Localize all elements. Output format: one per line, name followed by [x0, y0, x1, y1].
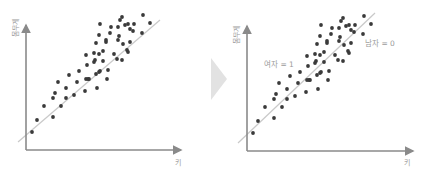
data-point	[319, 23, 323, 27]
data-point	[131, 29, 135, 33]
right-chart: 몸무게 키 여자 = 1 남자 = 0	[232, 13, 413, 167]
data-point	[101, 59, 105, 63]
data-point	[101, 49, 105, 53]
data-point	[315, 42, 319, 46]
data-point	[326, 78, 330, 82]
data-point	[83, 89, 87, 93]
data-point	[148, 21, 152, 25]
data-point	[285, 87, 289, 91]
data-point	[338, 35, 342, 39]
data-point	[325, 39, 329, 43]
data-point	[42, 104, 46, 108]
data-point	[341, 59, 345, 63]
data-point	[98, 22, 102, 26]
data-point	[120, 15, 124, 19]
data-point	[362, 14, 366, 18]
data-point	[285, 97, 289, 101]
data-point	[277, 81, 281, 85]
data-point	[126, 50, 130, 54]
data-point	[314, 59, 318, 63]
x-axis-label: 키	[175, 158, 181, 167]
data-point	[256, 119, 260, 123]
data-point	[337, 26, 341, 30]
data-point	[296, 81, 300, 85]
data-point	[108, 31, 112, 35]
data-point	[304, 90, 308, 94]
data-point	[30, 130, 34, 134]
data-point	[313, 52, 317, 56]
data-point	[93, 58, 97, 62]
data-point	[105, 77, 109, 81]
data-point	[329, 32, 333, 36]
data-point	[347, 51, 351, 55]
data-point	[97, 33, 101, 37]
data-point	[59, 104, 63, 108]
arrow-right-icon	[211, 58, 227, 100]
data-point	[319, 70, 323, 74]
data-point	[106, 68, 110, 72]
data-point	[322, 50, 326, 54]
data-point	[132, 22, 136, 26]
data-point	[92, 51, 96, 55]
data-point	[274, 92, 278, 96]
data-point	[327, 69, 331, 73]
data-point	[293, 94, 297, 98]
data-point	[120, 58, 124, 62]
data-point	[318, 53, 322, 57]
data-point	[112, 52, 116, 56]
data-point	[104, 38, 108, 42]
data-point	[121, 42, 125, 46]
data-point	[67, 73, 71, 77]
data-point	[128, 40, 132, 44]
data-point	[87, 77, 91, 81]
data-point	[141, 13, 145, 17]
data-point	[369, 22, 373, 26]
left-chart: 몸무게 키	[11, 13, 181, 167]
data-point	[353, 23, 357, 27]
data-point	[251, 131, 255, 135]
data-point	[51, 96, 55, 100]
data-point	[288, 74, 292, 78]
male-annotation: 남자 = 0	[365, 39, 395, 48]
data-point	[272, 97, 276, 101]
data-point	[126, 22, 130, 26]
data-point	[72, 93, 76, 97]
data-point	[56, 80, 60, 84]
data-point	[272, 116, 276, 120]
x-axis-label: 키	[404, 158, 410, 167]
data-point	[140, 31, 144, 35]
data-point	[115, 57, 119, 61]
data-point	[352, 30, 356, 34]
data-point	[361, 32, 365, 36]
y-axis-label: 몸무게	[232, 26, 241, 44]
data-point	[263, 105, 267, 109]
data-point	[333, 53, 337, 57]
data-point	[98, 69, 102, 73]
data-point	[347, 23, 351, 27]
data-point	[117, 34, 121, 38]
data-point	[97, 52, 101, 56]
data-point	[349, 41, 353, 45]
y-axis-label: 몸무게	[11, 19, 20, 37]
data-point	[330, 26, 334, 30]
data-points	[251, 14, 373, 135]
data-point	[51, 115, 55, 119]
data-point	[341, 16, 345, 20]
data-point	[116, 25, 120, 29]
data-point	[337, 39, 341, 43]
data-point	[53, 91, 57, 95]
data-point	[308, 78, 312, 82]
data-point	[298, 70, 302, 74]
data-point	[109, 25, 113, 29]
data-point	[342, 43, 346, 47]
data-point	[64, 86, 68, 90]
regression-line	[18, 20, 160, 142]
data-point	[84, 53, 88, 57]
data-point	[316, 87, 320, 91]
data-point	[322, 60, 326, 64]
data-point	[94, 41, 98, 45]
data-point	[85, 63, 89, 67]
female-annotation: 여자 = 1	[264, 59, 294, 69]
data-point	[95, 86, 99, 90]
scatter-figure: 몸무게 키 몸무게 키 여자 = 1 남자 = 0	[0, 0, 428, 178]
